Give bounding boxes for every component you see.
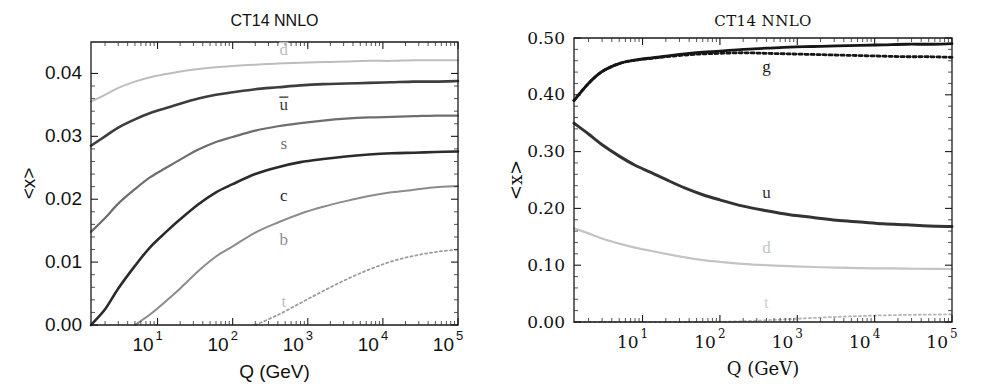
curve-ubar [91,81,458,146]
x-tick-exponent: 1 [641,327,649,341]
x-tick-mantissa: 10 [208,334,229,355]
y-axis-label: <x> [505,160,526,200]
y-tick-label: 0.01 [45,251,82,272]
x-tick-exponent: 4 [873,327,881,341]
x-tick-exponent: 5 [456,328,463,343]
x-tick-label: 105 [926,327,957,352]
y-tick-label: 0.02 [45,188,82,209]
curve-label-text: u [762,183,771,202]
curve-label-text: b [280,230,289,249]
x-tick-label: 105 [433,328,463,355]
right-plot-panel: 0.000.100.200.300.400.50101102103104105C… [491,0,982,387]
curve-u [574,123,952,226]
x-tick-label: 102 [208,328,238,355]
x-tick-label: 101 [132,328,162,355]
y-axis-label: <x> [18,168,39,200]
curve-t [255,250,458,325]
ct14-nnlo-figure: 0.000.010.020.030.04101102103104105CT14 … [0,0,982,387]
right-plot-svg: 0.000.100.200.300.400.50101102103104105C… [491,0,982,387]
curve-label-c: c [280,186,288,205]
y-tick-label: 0.00 [527,312,565,332]
x-tick-label: 101 [617,327,648,352]
curve-label-text: c [280,186,288,205]
x-tick-exponent: 2 [718,327,726,341]
x-axis-label: Q (GeV) [239,361,310,382]
x-tick-label: 104 [849,327,881,352]
curve-label-d: d [762,238,771,257]
x-tick-mantissa: 10 [433,334,454,355]
x-tick-exponent: 4 [381,328,388,343]
curve-label-text: t [764,293,769,312]
x-tick-label: 104 [358,328,388,355]
x-tick-exponent: 2 [231,328,238,343]
curve-s [91,116,458,232]
x-tick-label: 103 [283,328,313,355]
x-tick-label: 102 [694,327,725,352]
curve-label-s: s [281,134,288,153]
left-plot-svg: 0.000.010.020.030.04101102103104105CT14 … [0,0,491,387]
x-tick-mantissa: 10 [772,332,794,352]
curve-label-text: u [280,95,289,114]
curve-c [91,151,458,325]
curve-label-text: t [281,292,286,311]
curve-label-g: g [762,57,771,76]
y-tick-label: 0.10 [527,255,565,275]
curve-label-text: d [280,40,289,59]
plot-frame [91,42,458,325]
x-tick-label: 103 [772,327,803,352]
curve-label-dbar: d [279,40,288,59]
curve-label-text: d [762,238,771,257]
y-tick-label: 0.00 [45,314,82,335]
panel-title: CT14 NNLO [714,12,811,30]
x-tick-mantissa: 10 [694,332,716,352]
x-tick-exponent: 1 [156,328,163,343]
x-tick-mantissa: 10 [617,332,639,352]
curve-label-t: t [764,293,769,312]
y-tick-label: 0.03 [45,125,82,146]
y-tick-label: 0.04 [45,62,82,83]
x-tick-exponent: 3 [795,327,803,341]
x-tick-exponent: 5 [950,327,958,341]
y-tick-label: 0.40 [527,84,565,104]
curve-label-b: b [280,230,289,249]
x-tick-exponent: 3 [306,328,313,343]
plot-frame [574,38,952,322]
y-tick-label: 0.20 [527,198,565,218]
x-axis-label: Q (GeV) [727,358,800,379]
y-tick-label: 0.30 [527,141,565,161]
curve-label-t: t [281,292,286,311]
x-tick-mantissa: 10 [283,334,304,355]
panel-title: CT14 NNLO [230,12,318,29]
y-tick-label: 0.50 [527,28,565,48]
curve-label-u: u [762,183,771,202]
x-tick-mantissa: 10 [926,332,948,352]
curve-label-ubar: u [279,95,288,114]
curve-label-text: s [281,134,288,153]
curve-label-text: g [762,57,771,76]
left-plot-panel: 0.000.010.020.030.04101102103104105CT14 … [0,0,491,387]
x-tick-mantissa: 10 [132,334,153,355]
x-tick-mantissa: 10 [849,332,871,352]
x-tick-mantissa: 10 [358,334,379,355]
